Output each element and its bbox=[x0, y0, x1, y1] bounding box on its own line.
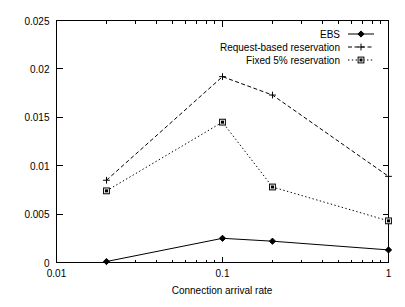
y-tick-label: 0.025 bbox=[24, 16, 49, 27]
legend-marker-3 bbox=[360, 59, 362, 61]
legend-label-2: Request-based reservation bbox=[220, 42, 340, 53]
x-tick-label: 0.01 bbox=[47, 268, 67, 279]
y-tick-label: 0.015 bbox=[24, 112, 49, 123]
y-tick-label: 0.005 bbox=[24, 209, 49, 220]
data-point bbox=[222, 121, 224, 123]
data-point bbox=[105, 190, 107, 192]
legend-label-1: EBS bbox=[320, 29, 340, 40]
chart-background bbox=[0, 0, 405, 307]
y-tick-label: 0.01 bbox=[30, 161, 50, 172]
line-chart: 0.010.11 00.0050.010.0150.020.025 EBSReq… bbox=[0, 0, 405, 307]
data-point bbox=[271, 186, 273, 188]
x-tick-label: 0.1 bbox=[216, 268, 230, 279]
data-point bbox=[388, 220, 390, 222]
y-tick-label: 0.02 bbox=[30, 64, 50, 75]
chart-container: 0.010.11 00.0050.010.0150.020.025 EBSReq… bbox=[0, 0, 405, 307]
x-axis-title: Connection arrival rate bbox=[172, 285, 273, 296]
legend-label-3: Fixed 5% reservation bbox=[246, 55, 340, 66]
x-tick-label: 1 bbox=[386, 268, 392, 279]
y-tick-label: 0 bbox=[44, 258, 50, 269]
